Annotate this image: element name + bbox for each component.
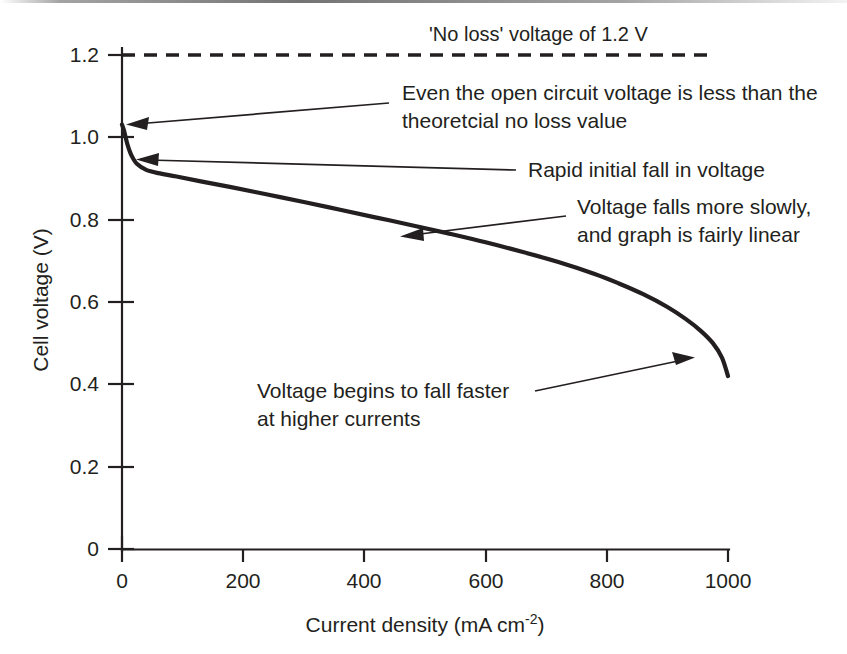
x-axis-title: Current density (mA cm-2) [306, 611, 545, 636]
x-axis-title-superscript: -2 [525, 611, 538, 627]
x-axis-ticks: 0 200 400 600 800 1000 [116, 536, 751, 592]
x-tick-label-1000: 1000 [705, 569, 752, 592]
y-tick-label-0.6: 0.6 [70, 290, 99, 313]
annotation-open-circuit-line-1: Even the open circuit voltage is less th… [402, 81, 818, 104]
y-tick-label-0.8: 0.8 [70, 208, 99, 231]
annotation-linear-region-leader [412, 216, 566, 235]
annotation-open-circuit: Even the open circuit voltage is less th… [126, 81, 818, 132]
annotation-open-circuit-leader [136, 103, 389, 124]
annotation-linear-region-line-2: and graph is fairly linear [577, 223, 800, 246]
x-axis-title-suffix: ) [537, 613, 544, 636]
annotation-rapid-fall-leader [148, 160, 516, 170]
annotation-mass-transport-line-1: Voltage begins to fall faster [257, 379, 509, 402]
figure-root: 1.2 1.0 0.8 0.6 0.4 0.2 0 0 200 400 600 … [0, 0, 847, 654]
x-tick-label-800: 800 [589, 569, 624, 592]
x-tick-label-600: 600 [468, 569, 503, 592]
annotation-no-loss-label: 'No loss' voltage of 1.2 V [429, 23, 649, 45]
x-axis-title-main: Current density (mA cm [306, 613, 525, 636]
x-tick-label-400: 400 [346, 569, 381, 592]
x-tick-label-200: 200 [225, 569, 260, 592]
x-tick-label-0: 0 [116, 569, 128, 592]
annotation-open-circuit-arrowhead [126, 117, 149, 130]
y-tick-label-0.2: 0.2 [70, 455, 99, 478]
y-axis-ticks: 1.2 1.0 0.8 0.6 0.4 0.2 0 [70, 43, 134, 560]
y-tick-label-0.4: 0.4 [70, 372, 100, 395]
y-tick-label-0: 0 [87, 537, 99, 560]
annotation-mass-transport-arrowhead [672, 352, 695, 365]
y-tick-label-1.2: 1.2 [70, 43, 99, 66]
annotation-linear-region-line-1: Voltage falls more slowly, [577, 195, 811, 218]
annotation-linear-region-arrowhead [400, 228, 424, 241]
annotation-mass-transport: Voltage begins to fall faster at higher … [257, 352, 695, 430]
y-axis-title: Cell voltage (V) [29, 228, 52, 372]
y-tick-label-1.0: 1.0 [70, 125, 99, 148]
annotation-rapid-fall-label: Rapid initial fall in voltage [528, 158, 765, 181]
annotation-mass-transport-leader [535, 360, 683, 391]
annotation-open-circuit-line-2: theoretcial no loss value [402, 109, 627, 132]
polarisation-curve-chart: 1.2 1.0 0.8 0.6 0.4 0.2 0 0 200 400 600 … [0, 0, 847, 654]
annotation-rapid-fall: Rapid initial fall in voltage [136, 153, 765, 181]
annotation-mass-transport-line-2: at higher currents [257, 407, 420, 430]
